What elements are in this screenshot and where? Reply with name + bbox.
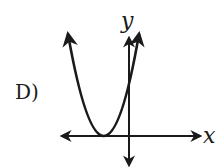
y-axis-label: y (120, 8, 134, 33)
x-axis-label: x (203, 123, 216, 148)
answer-choice-d: D) x y (0, 0, 221, 168)
parabola-graph: x y (0, 0, 221, 168)
